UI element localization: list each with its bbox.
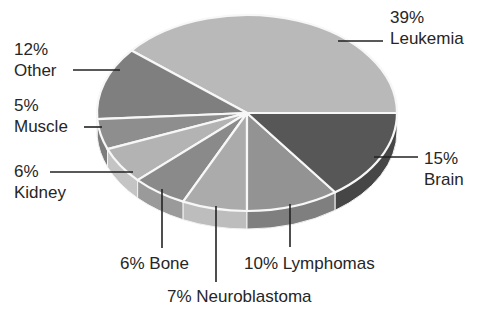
- label-bone: 6% Bone: [120, 253, 189, 274]
- label-muscle: 5% Muscle: [14, 95, 68, 137]
- label-kidney-name: Kidney: [14, 182, 66, 203]
- label-other-name: Other: [14, 60, 57, 81]
- label-muscle-pct: 5%: [14, 95, 68, 116]
- label-lymphomas-text: 10% Lymphomas: [244, 254, 375, 273]
- label-brain: 15% Brain: [424, 148, 464, 190]
- label-other-pct: 12%: [14, 39, 57, 60]
- label-bone-text: 6% Bone: [120, 254, 189, 273]
- label-lymphomas: 10% Lymphomas: [244, 253, 375, 274]
- label-leukemia-pct: 39%: [390, 7, 464, 28]
- pie-slices: [97, 15, 397, 211]
- label-other: 12% Other: [14, 39, 57, 81]
- label-brain-name: Brain: [424, 169, 464, 190]
- label-kidney-pct: 6%: [14, 161, 66, 182]
- label-neuroblastoma: 7% Neuroblastoma: [167, 286, 312, 307]
- label-kidney: 6% Kidney: [14, 161, 66, 203]
- label-brain-pct: 15%: [424, 148, 464, 169]
- label-leukemia: 39% Leukemia: [390, 7, 464, 49]
- label-neuroblastoma-text: 7% Neuroblastoma: [167, 287, 312, 306]
- label-muscle-name: Muscle: [14, 116, 68, 137]
- label-leukemia-name: Leukemia: [390, 28, 464, 49]
